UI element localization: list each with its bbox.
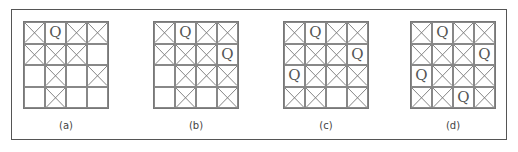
board-cell [66, 87, 87, 109]
cross-mark-icon [285, 45, 304, 65]
board-cell [45, 44, 66, 66]
queen-marker: Q [436, 25, 448, 40]
cross-mark-icon [348, 23, 367, 43]
board-cell [66, 22, 87, 44]
board-cell [87, 65, 108, 87]
cross-mark-icon [218, 88, 237, 108]
board-cell: Q [411, 65, 432, 87]
cross-mark-icon [412, 45, 431, 65]
board-cell [284, 44, 305, 66]
board-cell [474, 87, 495, 109]
board-cell: Q [217, 44, 238, 66]
board-cell [432, 87, 453, 109]
board-cell [326, 44, 347, 66]
chess-board-grid: QQQ [283, 21, 369, 109]
chess-board-grid: QQQQ [410, 21, 496, 109]
board-cell [24, 65, 45, 87]
cross-mark-icon [155, 23, 174, 43]
board-cell [305, 87, 326, 109]
queen-marker: Q [457, 90, 469, 105]
board-cell [87, 44, 108, 66]
cross-mark-icon [285, 23, 304, 43]
queen-marker: Q [415, 68, 427, 83]
board-cell [87, 87, 108, 109]
board-cell [347, 87, 368, 109]
board-cell [411, 87, 432, 109]
cross-mark-icon [475, 66, 494, 86]
board-cell [175, 87, 196, 109]
board-panel: QQ(b) [153, 21, 239, 131]
queen-marker: Q [351, 47, 363, 62]
board-cell [154, 44, 175, 66]
queen-marker: Q [309, 25, 321, 40]
queen-marker: Q [179, 25, 191, 40]
board-cell [196, 65, 217, 87]
board-cell [284, 22, 305, 44]
cross-mark-icon [306, 66, 325, 86]
cross-mark-icon [475, 23, 494, 43]
cross-mark-icon [454, 23, 473, 43]
cross-mark-icon [155, 45, 174, 65]
queen-marker: Q [288, 68, 300, 83]
board-cell [154, 65, 175, 87]
board-cell [453, 22, 474, 44]
queen-marker: Q [49, 25, 61, 40]
cross-mark-icon [433, 45, 452, 65]
board-cell [453, 44, 474, 66]
cross-mark-icon [67, 45, 86, 65]
cross-mark-icon [475, 88, 494, 108]
board-cell [175, 44, 196, 66]
chess-board-grid: QQ [153, 21, 239, 109]
board-cell [87, 22, 108, 44]
board-cell [474, 22, 495, 44]
board-cell: Q [453, 87, 474, 109]
cross-mark-icon [327, 45, 346, 65]
board-cell [196, 87, 217, 109]
cross-mark-icon [327, 23, 346, 43]
board-cell [154, 22, 175, 44]
board-panel: Q(a) [23, 21, 109, 131]
queen-marker: Q [221, 47, 233, 62]
cross-mark-icon [412, 88, 431, 108]
board-cell [66, 44, 87, 66]
board-cell [284, 87, 305, 109]
cross-mark-icon [433, 88, 452, 108]
board-cell [217, 65, 238, 87]
cross-mark-icon [218, 66, 237, 86]
board-cell [411, 22, 432, 44]
cross-mark-icon [306, 88, 325, 108]
cross-mark-icon [176, 88, 195, 108]
cross-mark-icon [25, 23, 44, 43]
board-cell: Q [474, 44, 495, 66]
cross-mark-icon [176, 66, 195, 86]
board-cell [45, 87, 66, 109]
board-cell [45, 65, 66, 87]
cross-mark-icon [88, 66, 107, 86]
cross-mark-icon [348, 88, 367, 108]
cross-mark-icon [412, 23, 431, 43]
panel-caption: (c) [283, 120, 369, 131]
cross-mark-icon [46, 45, 65, 65]
cross-mark-icon [327, 66, 346, 86]
cross-mark-icon [176, 45, 195, 65]
board-cell: Q [175, 22, 196, 44]
board-cell [217, 87, 238, 109]
board-cell: Q [432, 22, 453, 44]
queen-marker: Q [478, 47, 490, 62]
board-cell [474, 65, 495, 87]
board-panel: QQQ(c) [283, 21, 369, 131]
board-cell: Q [347, 44, 368, 66]
panel-caption: (d) [410, 120, 496, 131]
board-cell [66, 65, 87, 87]
board-cell [305, 65, 326, 87]
cross-mark-icon [88, 23, 107, 43]
cross-mark-icon [197, 45, 216, 65]
board-cell [411, 44, 432, 66]
board-cell: Q [45, 22, 66, 44]
cross-mark-icon [285, 88, 304, 108]
chess-board-grid: Q [23, 21, 109, 109]
board-cell [24, 87, 45, 109]
cross-mark-icon [197, 23, 216, 43]
panel-caption: (b) [153, 120, 239, 131]
board-cell [347, 65, 368, 87]
